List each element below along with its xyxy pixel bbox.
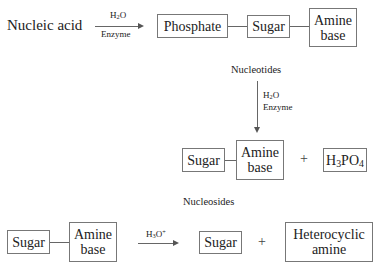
nucleotides-caption: Nucleotides [231,64,281,75]
arrowhead-icon [138,23,144,29]
enzyme-label: Enzyme [101,29,131,39]
sugar-box: Sugar [7,230,50,254]
nucleic-acid-label: Nucleic acid [7,17,82,34]
amine-base-box: Amine base [69,222,117,262]
heterocyclic-amine-box: Heterocyclic amine [285,222,373,262]
hydrolysis-reagent-label: H2O [110,10,126,20]
arrowhead-icon [173,240,179,246]
hydrolysis-reagent-label: H2O [263,90,279,100]
sugar-product-box: Sugar [199,231,242,254]
bond-line [225,160,236,161]
acid-reagent-label: H3O+ [146,229,166,239]
bond-line [50,242,69,243]
arrowhead-icon [254,127,260,133]
bond-line [228,26,247,27]
sugar-box: Sugar [247,15,290,38]
reaction-arrow-3 [138,243,174,244]
amine-base-box: Amine base [309,8,357,47]
plus-sign: + [258,234,266,250]
phosphoric-acid-box: H3PO4 [323,148,367,172]
enzyme-label: Enzyme [263,102,293,112]
bond-line [290,26,309,27]
amine-base-box: Amine base [236,140,284,180]
phosphate-box: Phosphate [157,14,228,38]
plus-sign: + [300,151,308,167]
nucleosides-caption: Nucleosides [183,196,234,207]
sugar-box: Sugar [182,148,225,172]
reaction-arrow-2 [257,81,258,128]
reaction-arrow-1 [95,26,139,27]
